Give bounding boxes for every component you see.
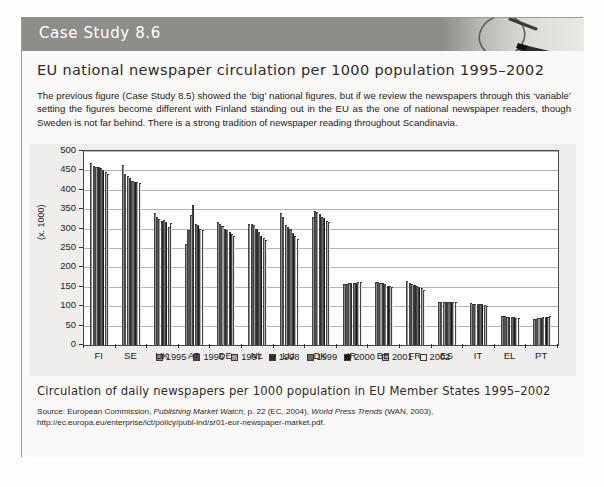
x-axis-tick-mark xyxy=(431,344,432,348)
chart-bar xyxy=(360,282,362,345)
y-axis-tick-mark xyxy=(79,189,83,190)
y-axis-tick-mark xyxy=(79,305,83,306)
chart-gridline xyxy=(84,190,558,191)
x-axis-tick-mark xyxy=(146,344,147,348)
x-axis-category-label: AT xyxy=(178,350,210,361)
chart-bar xyxy=(423,290,425,345)
y-axis-tick-label: 100 xyxy=(60,300,76,310)
x-axis-tick-mark xyxy=(209,344,210,348)
x-axis-category-label: UK xyxy=(146,350,178,361)
magnifier-icon xyxy=(458,18,578,51)
chart-bar xyxy=(139,183,141,345)
x-axis-tick-mark xyxy=(494,344,495,348)
y-axis-tick-mark xyxy=(79,169,83,170)
y-axis-tick-mark xyxy=(79,247,83,248)
x-axis-tick-mark xyxy=(178,344,179,348)
chart-bar xyxy=(233,236,235,345)
x-axis-tick-mark xyxy=(273,344,274,348)
x-axis-tick-mark xyxy=(462,344,463,348)
x-axis-category-label: SE xyxy=(115,350,147,361)
chart-plot-area xyxy=(83,150,559,346)
y-axis-tick-label: 250 xyxy=(60,242,76,252)
chart-bar xyxy=(391,287,393,345)
x-axis-category-label: DK xyxy=(304,350,336,361)
x-axis-category-label: IT xyxy=(462,350,494,361)
intro-paragraph: The previous figure (Case Study 8.5) sho… xyxy=(37,89,571,129)
x-axis-tick-mark xyxy=(115,344,116,348)
x-axis-tick-mark xyxy=(83,344,84,348)
x-axis-tick-mark xyxy=(525,344,526,348)
y-axis-tick-mark xyxy=(79,208,83,209)
x-axis-category-label: BE xyxy=(367,350,399,361)
x-axis-category-label: IR xyxy=(336,350,368,361)
y-axis-tick-mark xyxy=(79,228,83,229)
page-root: Case Study 8.6 EU national newspaper cir… xyxy=(0,0,604,487)
x-axis-category-label: FR xyxy=(399,350,431,361)
y-axis-tick-mark xyxy=(79,325,83,326)
x-axis-category-label: DE xyxy=(209,350,241,361)
chart-container: (x. 1000) 199519961997199819992000200120… xyxy=(30,144,576,376)
x-axis-category-label: PT xyxy=(525,350,557,361)
source-italic-2: World Press Trends xyxy=(311,407,382,416)
page-title: Case Study 8.6 xyxy=(39,24,161,42)
x-axis-category-label: NL xyxy=(241,350,273,361)
chart-bar xyxy=(486,306,488,345)
case-study-content: EU national newspaper circulation per 10… xyxy=(22,51,584,457)
y-axis-tick-label: 0 xyxy=(71,339,76,349)
y-axis-tick-mark xyxy=(79,150,83,151)
x-axis-tick-mark xyxy=(304,344,305,348)
source-prefix: Source: European Commission, xyxy=(37,407,154,416)
x-axis-category-label: ES xyxy=(431,350,463,361)
source-italic-1: Publishing Market Watch xyxy=(154,407,243,416)
y-axis-tick-mark xyxy=(79,286,83,287)
y-axis-tick-label: 200 xyxy=(60,261,76,271)
case-study-header-band: Case Study 8.6 xyxy=(22,18,584,51)
chart-bar xyxy=(297,239,299,345)
chart-gridline xyxy=(84,209,558,210)
x-axis-tick-mark xyxy=(241,344,242,348)
chart-bar xyxy=(328,222,330,345)
y-axis-tick-label: 350 xyxy=(60,203,76,213)
chart-bar xyxy=(455,302,457,345)
x-axis-tick-mark xyxy=(336,344,337,348)
chart-bar xyxy=(518,318,520,345)
x-axis-category-label: EL xyxy=(494,350,526,361)
y-axis-label: (x. 1000) xyxy=(36,204,46,240)
chart-bar xyxy=(170,223,172,345)
chart-gridline xyxy=(84,151,558,152)
case-study-card: Case Study 8.6 EU national newspaper cir… xyxy=(21,17,583,457)
figure-title: EU national newspaper circulation per 10… xyxy=(37,62,544,78)
x-axis-category-label: LU xyxy=(273,350,305,361)
y-axis-tick-label: 500 xyxy=(60,145,76,155)
y-axis-tick-label: 150 xyxy=(60,281,76,291)
y-axis-tick-label: 300 xyxy=(60,223,76,233)
chart-bar xyxy=(265,240,267,345)
y-axis-tick-label: 400 xyxy=(60,184,76,194)
chart-bar xyxy=(202,230,204,345)
y-axis-tick-mark xyxy=(79,266,83,267)
figure-source: Source: European Commission, Publishing … xyxy=(37,406,571,429)
figure-caption: Circulation of daily newspapers per 1000… xyxy=(37,384,551,398)
chart-gridline xyxy=(84,170,558,171)
x-axis-tick-mark xyxy=(367,344,368,348)
y-axis-tick-label: 450 xyxy=(60,164,76,174)
source-mid: , p. 22 (EC, 2004), xyxy=(243,407,311,416)
x-axis-tick-mark xyxy=(557,344,558,348)
chart-bar xyxy=(549,316,551,345)
x-axis-tick-mark xyxy=(399,344,400,348)
x-axis-category-label: FI xyxy=(83,350,115,361)
y-axis-tick-label: 50 xyxy=(65,320,76,330)
chart-bar xyxy=(107,174,109,345)
